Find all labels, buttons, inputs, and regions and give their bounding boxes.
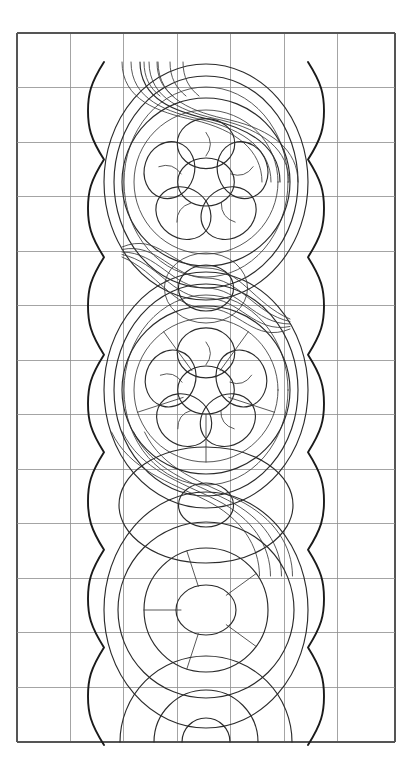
ornament-drawing — [0, 0, 412, 775]
drawing-canvas — [0, 0, 412, 775]
